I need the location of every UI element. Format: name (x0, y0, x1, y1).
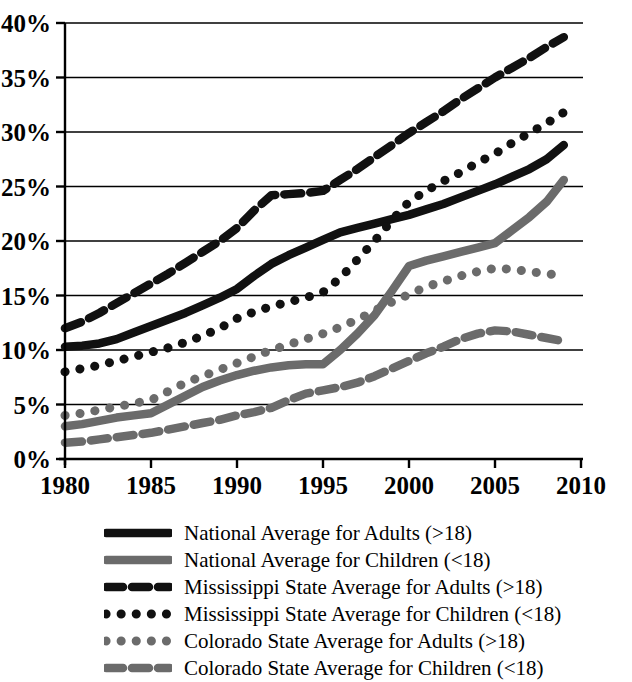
legend-item: National Average for Adults (>18) (104, 519, 624, 546)
legend-swatch-icon (104, 573, 172, 600)
legend-item-label: National Average for Adults (>18) (184, 521, 472, 545)
legend-item: National Average for Children (<18) (104, 546, 624, 573)
legend-swatch-icon (104, 519, 172, 546)
line-chart-plot: 0%5%10%15%20%25%30%35%40% 19801985199019… (0, 0, 632, 510)
y-axis-ticks (56, 23, 65, 459)
y-axis-tick-label: 20% (1, 228, 51, 255)
x-axis-tick-label: 1995 (298, 472, 348, 499)
legend-item-label: Colorado State Average for Adults (>18) (184, 629, 525, 653)
y-axis-labels: 0%5%10%15%20%25%30%35%40% (1, 10, 51, 473)
legend-swatch-icon (104, 627, 172, 654)
x-axis-labels: 1980198519901995200020052010 (40, 472, 606, 499)
y-axis-tick-label: 40% (1, 10, 51, 37)
legend-item-label: Colorado State Average for Children (<18… (184, 656, 544, 680)
y-axis-tick-label: 30% (1, 119, 51, 146)
legend-item-label: National Average for Children (<18) (184, 548, 491, 572)
legend-item: Mississippi State Average for Adults (>1… (104, 573, 624, 600)
y-axis-tick-label: 0% (14, 446, 52, 473)
chart-figure: 0%5%10%15%20%25%30%35%40% 19801985199019… (0, 0, 632, 682)
legend-swatch-icon (104, 654, 172, 681)
y-axis-tick-label: 25% (1, 174, 51, 201)
x-axis-tick-label: 1990 (212, 472, 262, 499)
x-axis-tick-label: 1980 (40, 472, 90, 499)
x-axis-tick-label: 2010 (556, 472, 606, 499)
y-axis-tick-label: 10% (1, 337, 51, 364)
data-series-group (65, 37, 564, 442)
legend-item: Colorado State Average for Children (<18… (104, 654, 624, 681)
series-line-5 (65, 330, 564, 442)
y-axis-tick-label: 5% (14, 392, 52, 419)
chart-legend: National Average for Adults (>18)Nationa… (104, 519, 624, 681)
legend-swatch-icon (104, 600, 172, 627)
series-line-1 (65, 180, 564, 426)
y-axis-tick-label: 35% (1, 65, 51, 92)
x-axis-tick-label: 2005 (470, 472, 520, 499)
gridlines (65, 23, 583, 405)
x-axis-tick-label: 1985 (126, 472, 176, 499)
legend-item: Mississippi State Average for Children (… (104, 600, 624, 627)
y-axis-tick-label: 15% (1, 283, 51, 310)
legend-item: Colorado State Average for Adults (>18) (104, 627, 624, 654)
legend-swatch-icon (104, 546, 172, 573)
legend-item-label: Mississippi State Average for Adults (>1… (184, 575, 543, 599)
x-axis-ticks (65, 459, 581, 468)
legend-item-label: Mississippi State Average for Children (… (184, 602, 561, 626)
x-axis-tick-label: 2000 (384, 472, 434, 499)
